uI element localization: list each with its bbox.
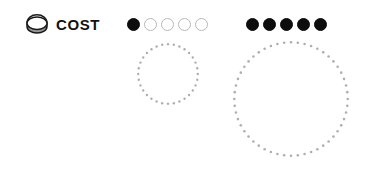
cost-label-text: COST xyxy=(56,17,100,32)
cost-pip-empty xyxy=(144,18,157,31)
cost-pip-filled xyxy=(246,18,259,31)
cost-pip-empty xyxy=(161,18,174,31)
cost-pip-filled xyxy=(263,18,276,31)
cost-pip-empty xyxy=(178,18,191,31)
cost-label: COST xyxy=(24,13,100,35)
dotted-circle-small xyxy=(136,42,200,106)
cost-pip-filled xyxy=(127,18,140,31)
coin-icon xyxy=(24,13,50,35)
cost-pip-filled xyxy=(314,18,327,31)
cost-pip-filled xyxy=(297,18,310,31)
cost-pip-empty xyxy=(195,18,208,31)
cost-pips-group-1 xyxy=(127,18,208,31)
cost-pips-group-2 xyxy=(246,18,327,31)
dotted-circle-large xyxy=(232,40,350,158)
cost-pip-filled xyxy=(280,18,293,31)
cost-indicator-canvas: COST xyxy=(0,0,366,172)
